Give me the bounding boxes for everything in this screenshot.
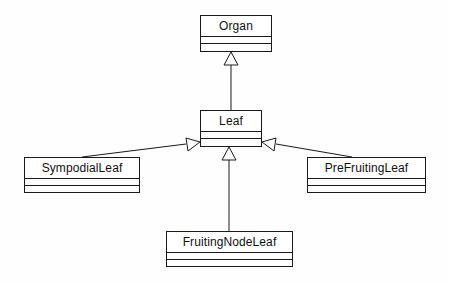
uml-operations-compartment-fruitingnodeleaf	[167, 260, 292, 267]
uml-operations-compartment-sympodialleaf	[25, 186, 139, 193]
uml-class-name-label: SympodialLeaf	[42, 162, 123, 174]
generalization-arrowhead-leaf-organ	[224, 52, 238, 65]
generalization-prefruitingleaf-to-leaf[interactable]	[262, 138, 352, 157]
uml-class-name-prefruitingleaf: PreFruitingLeaf	[308, 158, 425, 179]
generalization-line-sympodialleaf-leaf	[82, 144, 186, 157]
generalization-arrowhead-prefruitingleaf-leaf	[262, 138, 276, 151]
generalization-arrowhead-sympodialleaf-leaf	[186, 138, 200, 151]
uml-operations-compartment-leaf	[201, 139, 261, 146]
uml-class-name-sympodialleaf: SympodialLeaf	[25, 158, 139, 179]
uml-class-sympodialleaf[interactable]: SympodialLeaf	[24, 157, 140, 193]
generalization-leaf-to-organ[interactable]	[224, 52, 238, 110]
uml-attributes-compartment-sympodialleaf	[25, 179, 139, 186]
uml-attributes-compartment-prefruitingleaf	[308, 179, 425, 186]
uml-class-name-leaf: Leaf	[201, 111, 261, 132]
uml-class-leaf[interactable]: Leaf	[200, 110, 262, 147]
uml-attributes-compartment-organ	[201, 37, 271, 44]
uml-class-fruitingnodeleaf[interactable]: FruitingNodeLeaf	[166, 231, 293, 267]
uml-class-name-label: FruitingNodeLeaf	[183, 236, 277, 248]
uml-class-diagram-canvas: Organ Leaf SympodialLeaf PreFruitingLeaf…	[0, 0, 449, 284]
generalization-line-prefruitingleaf-leaf	[276, 144, 352, 157]
uml-attributes-compartment-leaf	[201, 132, 261, 139]
uml-class-organ[interactable]: Organ	[200, 15, 272, 52]
generalization-arrowhead-fruitingnodeleaf-leaf	[222, 147, 236, 160]
uml-operations-compartment-organ	[201, 44, 271, 51]
generalization-sympodialleaf-to-leaf[interactable]	[82, 138, 200, 157]
uml-operations-compartment-prefruitingleaf	[308, 186, 425, 193]
uml-class-name-label: Organ	[219, 20, 253, 32]
uml-attributes-compartment-fruitingnodeleaf	[167, 253, 292, 260]
generalization-fruitingnodeleaf-to-leaf[interactable]	[222, 147, 236, 231]
uml-class-name-label: Leaf	[219, 115, 243, 127]
uml-class-name-organ: Organ	[201, 16, 271, 37]
uml-class-name-label: PreFruitingLeaf	[325, 162, 409, 174]
uml-class-name-fruitingnodeleaf: FruitingNodeLeaf	[167, 232, 292, 253]
uml-class-prefruitingleaf[interactable]: PreFruitingLeaf	[307, 157, 426, 193]
